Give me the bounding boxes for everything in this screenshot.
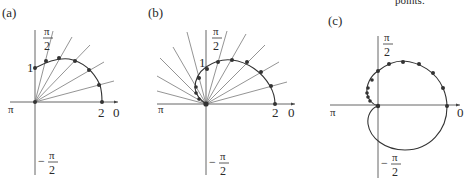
panel-a-label: (a) xyxy=(2,5,16,20)
panel-c: (c) π 2 π 0 − π 2 xyxy=(328,13,464,179)
label-r1: 1 xyxy=(27,60,34,75)
label-neg-pi-den: 2 xyxy=(49,163,55,177)
panel-c-label: (c) xyxy=(328,13,342,28)
rays xyxy=(157,31,287,104)
label-r2: 2 xyxy=(98,105,105,120)
label-zero: 0 xyxy=(113,105,120,120)
label-pi: π xyxy=(8,103,14,115)
label-zero: 0 xyxy=(457,105,464,120)
label-pi: π xyxy=(158,103,164,115)
label-pi-over-2-den: 2 xyxy=(384,45,390,59)
label-pi-over-2-num: π xyxy=(213,25,219,37)
label-neg-pi-den: 2 xyxy=(220,164,226,178)
label-pi-over-2-num: π xyxy=(44,25,50,37)
label-neg-pi-num: π xyxy=(220,150,226,162)
label-pi: π xyxy=(330,106,336,118)
label-zero: 0 xyxy=(288,105,295,120)
label-neg-pi-num: π xyxy=(49,149,55,161)
label-minus: − xyxy=(209,155,216,169)
figure-canvas: points. (a) π 2 1 π 2 0 − xyxy=(0,0,467,183)
label-pi-over-2-den: 2 xyxy=(213,39,219,53)
label-r2: 2 xyxy=(272,105,279,120)
label-neg-pi-num: π xyxy=(392,151,398,163)
header-fragment: points. xyxy=(395,0,425,6)
label-minus: − xyxy=(38,154,45,168)
label-r1: 1 xyxy=(199,55,206,70)
label-pi-over-2-num: π xyxy=(384,31,390,43)
label-neg-pi-den: 2 xyxy=(392,165,398,179)
panel-b-label: (b) xyxy=(148,5,163,20)
label-minus: − xyxy=(381,156,388,170)
panel-b: (b) π xyxy=(148,5,295,178)
points xyxy=(194,58,277,107)
label-pi-over-2-den: 2 xyxy=(44,39,50,53)
panel-a: (a) π 2 1 π 2 0 − π 2 xyxy=(2,5,120,177)
cardioid-arc xyxy=(195,60,275,104)
cardioid-arc xyxy=(35,59,102,102)
